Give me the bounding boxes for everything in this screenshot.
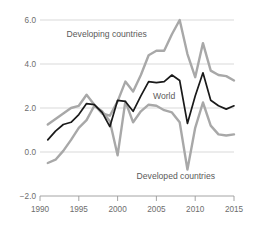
y-axis-labels: 6.04.02.00.0−2.0 <box>20 16 37 201</box>
x-axis <box>40 196 234 201</box>
x-tick-label: 2010 <box>186 205 205 214</box>
x-axis-labels: 199019952000200520102015 <box>31 205 244 214</box>
x-tick-label: 2015 <box>225 205 244 214</box>
x-tick-label: 1990 <box>31 205 50 214</box>
y-tick-label: 4.0 <box>25 60 37 69</box>
x-tick-label: 1995 <box>70 205 89 214</box>
series-line-developed-countries <box>48 101 234 169</box>
y-tick-label: 0.0 <box>25 148 37 157</box>
y-tick-label: 2.0 <box>25 104 37 113</box>
y-tick-label: −2.0 <box>20 192 37 201</box>
line-chart: 6.04.02.00.0−2.0199019952000200520102015… <box>0 0 258 245</box>
y-tick-label: 6.0 <box>25 16 37 25</box>
series-label-world: World <box>153 91 176 101</box>
chart-container: 6.04.02.00.0−2.0199019952000200520102015… <box>0 0 258 245</box>
series-label-developed-countries: Developed countries <box>137 171 215 181</box>
x-tick-label: 2005 <box>147 205 166 214</box>
series-label-developing-countries: Developing countries <box>67 29 147 39</box>
x-tick-label: 2000 <box>108 205 127 214</box>
series-group <box>48 20 234 170</box>
